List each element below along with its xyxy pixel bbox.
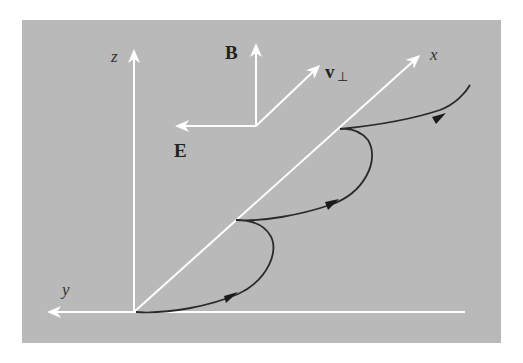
- y-axis-label: y: [60, 280, 70, 299]
- particle-trajectory: [136, 85, 470, 312]
- x-axis-label: x: [429, 45, 438, 64]
- trajectory-arrow-1: [224, 292, 238, 303]
- E-label: E: [174, 140, 187, 161]
- trajectory-arrow-2: [325, 199, 339, 210]
- B-label: B: [225, 42, 238, 63]
- z-axis-label: z: [110, 47, 118, 66]
- field-vectors: [178, 46, 318, 126]
- trajectory-arrow-3: [432, 113, 446, 124]
- x-axis: [134, 57, 418, 312]
- drift-diagram: z x y B E v ⊥: [0, 0, 523, 363]
- v-perp-vector: [256, 67, 318, 126]
- v-perp-label: v: [325, 61, 335, 82]
- v-perp-subscript: ⊥: [337, 69, 348, 84]
